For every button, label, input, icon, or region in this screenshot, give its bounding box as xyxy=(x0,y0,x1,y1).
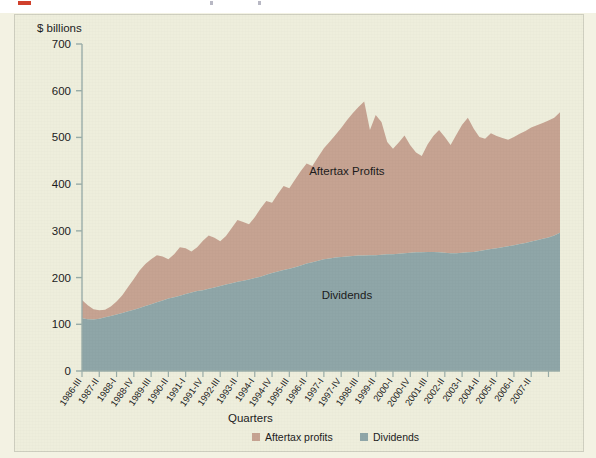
x-axis: 1986-III1987-II1988-I1988-IV1989-III1990… xyxy=(58,371,560,409)
legend-swatch xyxy=(360,433,368,441)
inline-series-label: Dividends xyxy=(322,289,373,301)
figure-canvas: 0100200300400500600700 1986-III1987-II19… xyxy=(0,0,596,458)
y-tick-label: 100 xyxy=(52,318,71,330)
y-tick-label: 200 xyxy=(52,272,71,284)
y-axis-unit-label: $ billions xyxy=(37,22,82,34)
legend-swatch xyxy=(252,433,260,441)
inline-series-label: Aftertax Profits xyxy=(309,165,385,177)
y-tick-label: 0 xyxy=(65,365,71,377)
chart-legend: Aftertax profitsDividends xyxy=(252,431,419,443)
y-tick-label: 500 xyxy=(52,131,71,143)
stacked-area-chart: 0100200300400500600700 1986-III1987-II19… xyxy=(0,0,596,458)
y-tick-label: 400 xyxy=(52,178,71,190)
x-axis-ticks xyxy=(82,371,548,377)
x-axis-title: Quarters xyxy=(228,412,273,424)
chart-areas xyxy=(82,101,560,371)
legend-label: Aftertax profits xyxy=(265,431,333,443)
y-axis-tick-labels: 0100200300400500600700 xyxy=(52,38,71,377)
y-tick-label: 300 xyxy=(52,225,71,237)
y-axis: 0100200300400500600700 xyxy=(52,38,82,377)
y-tick-label: 700 xyxy=(52,38,71,50)
legend-label: Dividends xyxy=(373,431,419,443)
x-axis-tick-labels: 1986-III1987-II1988-I1988-IV1989-III1990… xyxy=(58,376,533,409)
y-axis-ticks xyxy=(76,44,82,371)
y-tick-label: 600 xyxy=(52,85,71,97)
